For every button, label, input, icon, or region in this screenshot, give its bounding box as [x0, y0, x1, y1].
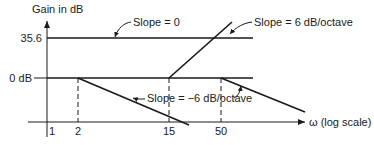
rising-slope-line — [169, 22, 232, 78]
slope-pos-leader — [230, 22, 252, 34]
x-axis-label: ω (log scale) — [309, 116, 371, 128]
bode-diagram: Gain in dB 35.6 0 dB 1 2 15 50 ω (log sc… — [0, 0, 374, 145]
slope-neg-label: Slope = −6 dB/octave — [147, 92, 252, 104]
y-tick-0db: 0 dB — [9, 72, 32, 84]
slope-neg-leader-left — [133, 98, 145, 99]
y-axis-label: Gain in dB — [32, 3, 83, 15]
x-tick-15: 15 — [163, 125, 175, 137]
slope-zero-label: Slope = 0 — [133, 16, 180, 28]
slope-pos-label: Slope = 6 dB/octave — [254, 16, 353, 28]
x-tick-50: 50 — [215, 125, 227, 137]
x-tick-1: 1 — [49, 125, 55, 137]
y-tick-35-6: 35.6 — [21, 32, 42, 44]
x-tick-2: 2 — [75, 125, 81, 137]
slope-zero-leader — [115, 22, 131, 37]
